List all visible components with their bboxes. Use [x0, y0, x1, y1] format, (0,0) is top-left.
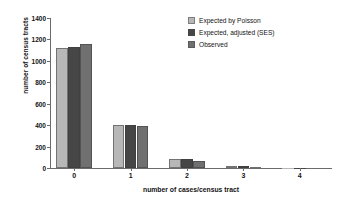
bar-chart-figure: number of census tracts 0200400600800100…: [0, 0, 340, 208]
legend-swatch-icon: [188, 17, 195, 24]
x-axis-tick-label: 2: [175, 172, 199, 179]
bar: [181, 159, 193, 168]
bar: [137, 126, 149, 168]
legend-label: Expected, adjusted (SES): [199, 29, 275, 37]
x-axis-tick-label: 0: [62, 172, 86, 179]
x-axis-tick-label: 4: [288, 172, 312, 179]
legend-item: Expected by Poisson: [188, 15, 333, 26]
bar-group: [56, 18, 92, 168]
y-axis-line: [50, 18, 51, 168]
bar: [56, 48, 68, 168]
y-axis-tick-mark: [47, 39, 50, 40]
y-axis-tick-mark: [47, 147, 50, 148]
y-axis-tick-mark: [47, 104, 50, 105]
bar: [169, 159, 181, 168]
x-axis-tick-mark: [300, 168, 301, 171]
legend-swatch-icon: [188, 41, 195, 48]
x-axis-title: number of cases/census tract: [50, 186, 332, 193]
bar: [68, 47, 80, 168]
y-axis-tick-mark: [47, 61, 50, 62]
y-axis-tick-mark: [47, 125, 50, 126]
bar: [226, 166, 238, 168]
bar-group: [113, 18, 149, 168]
legend-swatch-icon: [188, 29, 195, 36]
x-axis-tick-label: 1: [119, 172, 143, 179]
legend-label: Observed: [199, 41, 228, 49]
y-axis-tick-labels: 0200400600800100012001400: [18, 0, 46, 208]
legend-item: Observed: [188, 39, 333, 50]
x-axis-tick-mark: [243, 168, 244, 171]
y-axis-tick-label: 200: [20, 143, 46, 150]
bar: [113, 125, 125, 168]
x-axis-line: [50, 168, 332, 169]
x-axis-tick-label: 3: [231, 172, 255, 179]
y-axis-tick-mark: [47, 18, 50, 19]
y-axis-tick-label: 1000: [20, 57, 46, 64]
y-axis-tick-mark: [47, 82, 50, 83]
y-axis-tick-label: 400: [20, 122, 46, 129]
y-axis-tick-label: 0: [20, 165, 46, 172]
legend-label: Expected by Poisson: [199, 17, 261, 25]
x-axis-tick-mark: [131, 168, 132, 171]
bar: [125, 125, 137, 168]
chart-legend: Expected by PoissonExpected, adjusted (S…: [188, 15, 333, 51]
y-axis-tick-label: 1200: [20, 36, 46, 43]
legend-item: Expected, adjusted (SES): [188, 27, 333, 38]
x-axis-tick-mark: [187, 168, 188, 171]
y-axis-tick-label: 600: [20, 100, 46, 107]
bar: [250, 167, 262, 168]
y-axis-tick-label: 800: [20, 79, 46, 86]
bar: [80, 44, 92, 168]
bar: [193, 161, 205, 168]
x-axis-tick-mark: [74, 168, 75, 171]
y-axis-tick-mark: [47, 168, 50, 169]
y-axis-tick-label: 1400: [20, 15, 46, 22]
